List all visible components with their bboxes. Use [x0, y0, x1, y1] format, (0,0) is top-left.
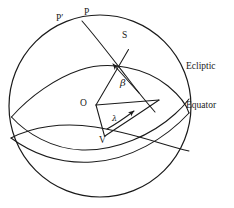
label-equator: Equator: [186, 101, 216, 111]
label-star: S: [122, 31, 127, 41]
label-observer: O: [80, 99, 87, 109]
radius-to-ecliptic-foot: [96, 100, 159, 105]
label-ecliptic: Ecliptic: [186, 62, 216, 72]
label-celestial-longitude-lambda: λ: [112, 115, 117, 123]
label-celestial-latitude-beta: β: [120, 78, 126, 88]
celestial-sphere-figure: P′ P S O V Ecliptic Equator β λ: [0, 0, 234, 208]
radius-to-vernal-equinox: [96, 105, 105, 136]
label-celestial-pole: P: [84, 8, 89, 18]
ecliptic-great-circle: [12, 66, 190, 117]
label-vernal-equinox: V: [99, 136, 106, 146]
label-ecliptic-pole: P′: [56, 14, 63, 24]
beta-angle-arc: [113, 64, 139, 93]
